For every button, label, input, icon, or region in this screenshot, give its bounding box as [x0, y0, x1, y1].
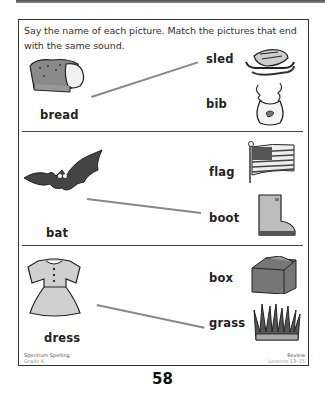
word-flag: flag — [209, 165, 235, 179]
word-sled: sled — [206, 52, 234, 66]
word-boot: boot — [209, 211, 239, 225]
bat-icon — [22, 148, 106, 200]
grass-icon — [252, 302, 302, 342]
bib-icon — [252, 81, 288, 127]
boot-icon — [255, 193, 299, 237]
box-icon — [250, 256, 298, 294]
scan-edge-bar — [16, 0, 325, 3]
dress-icon — [24, 257, 84, 319]
word-bib: bib — [206, 97, 227, 111]
footer-lessons: Lessons 13–15 — [268, 358, 305, 364]
page-number: 58 — [0, 370, 325, 388]
footer-left: Spectrum Spelling Grade K — [24, 352, 70, 364]
sled-icon — [244, 46, 296, 78]
bread-icon — [22, 54, 88, 94]
word-grass: grass — [209, 316, 245, 330]
word-dress: dress — [44, 331, 80, 345]
section-divider-2 — [22, 245, 303, 246]
section-divider-1 — [22, 131, 303, 132]
word-bread: bread — [40, 108, 79, 122]
word-box: box — [209, 271, 233, 285]
footer-right: Review Lessons 13–15 — [268, 352, 305, 364]
flag-icon — [246, 141, 298, 183]
footer-grade: Grade K — [24, 358, 70, 364]
word-bat: bat — [46, 226, 68, 240]
